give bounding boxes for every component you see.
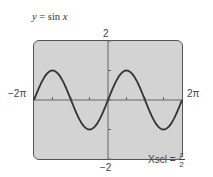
x-min-label: −2π: [8, 88, 26, 99]
x-max-label: 2π: [187, 88, 199, 99]
xscl-label: Xscl =: [148, 154, 176, 165]
y-min-label: −2: [100, 162, 111, 173]
xscl-fraction: π 2: [179, 150, 185, 169]
xscl-denominator: 2: [179, 160, 183, 169]
y-max-label: 2: [103, 28, 109, 39]
xscl-numerator: π: [179, 150, 185, 160]
xscl-note: Xscl = π 2: [148, 150, 185, 169]
